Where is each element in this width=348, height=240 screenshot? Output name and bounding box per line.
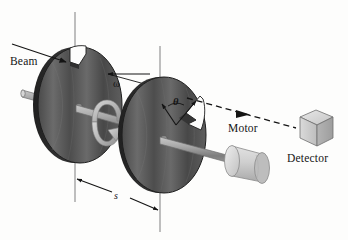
motor-cylinder	[225, 146, 270, 184]
beam-label: Beam	[10, 55, 38, 67]
disk-far	[118, 77, 206, 193]
angle-theta-label: θ	[173, 96, 179, 107]
angular-velocity-label: ω	[113, 78, 120, 89]
separation-label: s	[114, 190, 118, 201]
detector-label: Detector	[287, 152, 328, 164]
motor-label: Motor	[228, 122, 258, 134]
physics-diagram-figure: Beam ω θ Motor Detector s	[0, 0, 348, 240]
detector-cube	[300, 110, 333, 146]
diagram-canvas	[0, 0, 348, 240]
